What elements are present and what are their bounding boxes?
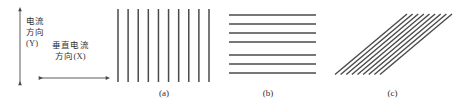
panel-b-caption: (b) — [216, 88, 320, 98]
y-axis-label-line-2: 方向 — [26, 27, 44, 38]
stripe-line — [341, 14, 413, 74]
stripe-line — [369, 14, 441, 74]
panel-c-caption: (c) — [320, 88, 465, 98]
panel-c-pattern — [320, 0, 465, 90]
y-axis-label: 电流 方向 (Y) — [26, 16, 44, 49]
axis-orientation-diagram: 电流 方向 (Y) 垂直电流 方向(X) — [0, 0, 115, 112]
panel-a: (a) — [112, 0, 216, 112]
x-axis-label-line-1: 垂直电流 — [52, 40, 89, 51]
stripe-line — [358, 14, 430, 74]
stripe-line — [346, 14, 418, 74]
y-axis-label-line-3: (Y) — [26, 38, 44, 49]
stripe-line — [374, 14, 446, 74]
stripe-line — [380, 14, 452, 74]
figure-root: 电流 方向 (Y) 垂直电流 方向(X) (a) (b) (c) — [0, 0, 465, 112]
x-axis-label: 垂直电流 方向(X) — [52, 40, 89, 62]
stripe-line — [335, 14, 407, 74]
x-axis-label-line-2: 方向(X) — [52, 51, 89, 62]
panel-a-pattern — [112, 0, 216, 90]
panel-a-caption: (a) — [112, 88, 216, 98]
stripe-line — [363, 14, 435, 74]
stripe-line — [352, 14, 424, 74]
panel-b-pattern — [216, 0, 320, 90]
y-axis-label-line-1: 电流 — [26, 16, 44, 27]
panel-c: (c) — [320, 0, 465, 112]
panel-b: (b) — [216, 0, 320, 112]
